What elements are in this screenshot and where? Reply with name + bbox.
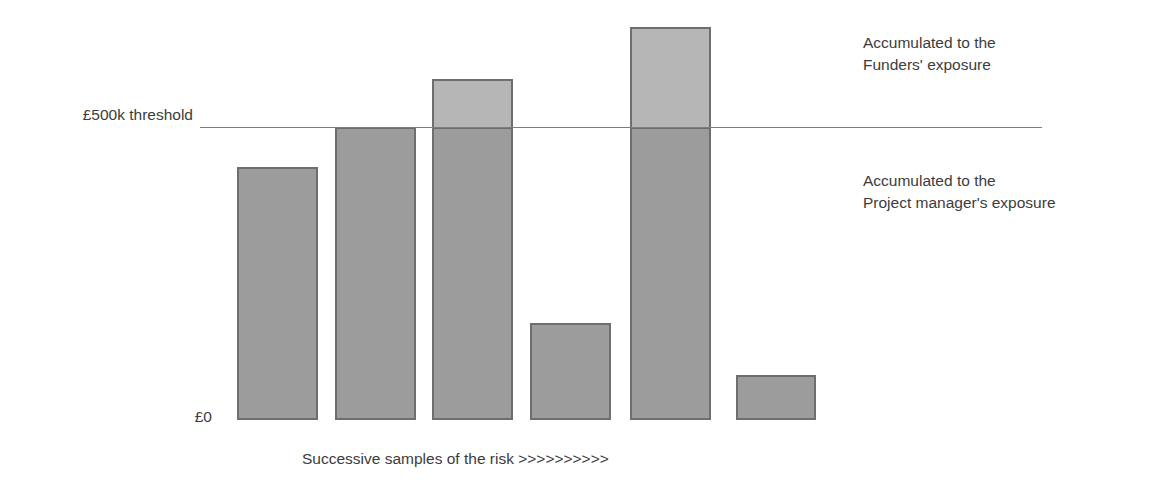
annotation-project-manager-exposure: Accumulated to the Project manager's exp… — [863, 170, 1056, 215]
bar-6 — [736, 375, 816, 420]
bar-4 — [530, 323, 611, 420]
bar-1 — [237, 167, 318, 420]
bar-2 — [335, 127, 416, 420]
bar-3 — [432, 79, 513, 420]
bar-5 — [630, 27, 711, 420]
xaxis-caption: Successive samples of the risk >>>>>>>>>… — [302, 450, 609, 468]
zero-axis-label: £0 — [0, 408, 212, 426]
threshold-label: £500k threshold — [0, 106, 193, 124]
annotation-funders-exposure: Accumulated to the Funders' exposure — [863, 32, 996, 77]
bar-5-above-threshold-segment — [632, 29, 709, 129]
risk-exposure-chart: £500k threshold £0 Accumulated to the Fu… — [0, 0, 1155, 480]
threshold-line — [200, 127, 1042, 128]
bar-3-above-threshold-segment — [434, 81, 511, 129]
